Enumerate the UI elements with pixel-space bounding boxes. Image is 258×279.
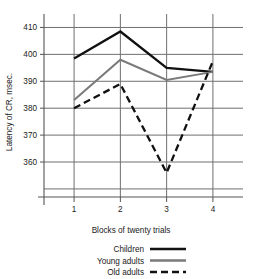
x-axis-tick-labels: 1234 [72, 205, 216, 214]
y-axis-tick-labels: 410400390380370360 [23, 23, 37, 167]
series-line-old-adults [74, 61, 213, 173]
y-axis-title: Latency of CR, msec. [5, 73, 14, 151]
x-tick-label: 2 [118, 205, 123, 214]
legend-label-young-adults: Young adults [97, 257, 144, 266]
y-tick-label: 370 [23, 131, 37, 140]
legend-label-old-adults: Old adults [107, 268, 144, 277]
series-line-children [74, 31, 213, 71]
y-tick-label: 410 [23, 23, 37, 32]
axis-lines [38, 14, 243, 205]
y-tick-label: 390 [23, 77, 37, 86]
x-tick-label: 3 [164, 205, 169, 214]
y-tick-label: 380 [23, 104, 37, 113]
x-tick-label: 4 [211, 205, 216, 214]
chart-canvas: 410400390380370360 1234 Latency of CR, m… [0, 0, 258, 279]
x-axis-ticks [74, 197, 213, 202]
vertical-gridlines [74, 14, 213, 197]
chart-legend: ChildrenYoung adultsOld adults [97, 245, 186, 277]
legend-label-children: Children [114, 245, 145, 254]
x-axis-title: Blocks of twenty trials [92, 226, 171, 235]
x-tick-label: 1 [72, 205, 77, 214]
y-tick-label: 400 [23, 50, 37, 59]
y-tick-label: 360 [23, 158, 37, 167]
data-series-group [74, 31, 213, 172]
line-chart: 410400390380370360 1234 Latency of CR, m… [0, 0, 258, 279]
series-line-young-adults [74, 60, 213, 100]
y-axis-ticks [40, 27, 44, 162]
